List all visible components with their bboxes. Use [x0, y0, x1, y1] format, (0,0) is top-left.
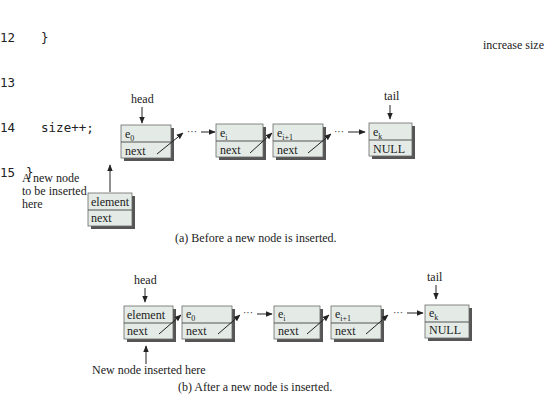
node-ek: ek NULL: [425, 305, 472, 341]
caption-b: (b) After a new node is inserted.: [178, 380, 332, 394]
head-label: head: [131, 92, 154, 106]
head-label: head: [134, 273, 157, 287]
node-link: next: [127, 324, 148, 338]
node-e0: e0 next: [121, 125, 174, 161]
new-node: element next: [88, 193, 135, 229]
node-link: NULL: [373, 142, 405, 156]
node-ei: ei next: [274, 306, 323, 342]
ellipsis: ···: [393, 307, 403, 318]
node-link: next: [91, 211, 112, 225]
node-link: next: [186, 324, 207, 338]
new-node-label: New node inserted here: [92, 363, 206, 377]
diagram-after-insert: head element next e0 next ··· ei n: [92, 270, 472, 394]
node-e0: e0 next: [182, 306, 235, 342]
node-ek: ek NULL: [369, 123, 415, 159]
diagram-before-insert: head e0 next ··· ei next ei+1 next: [22, 89, 415, 245]
node-value: element: [91, 195, 130, 209]
ellipsis: ···: [243, 307, 253, 318]
node-link: next: [125, 144, 146, 158]
node-ei: ei next: [216, 124, 266, 160]
new-node-label: A new node to be inserted here: [22, 171, 90, 211]
node-link: next: [277, 143, 298, 157]
linked-list-diagram: head e0 next ··· ei next ei+1 next: [0, 0, 555, 402]
caption-a: (a) Before a new node is inserted.: [175, 231, 337, 245]
tail-label: tail: [427, 270, 443, 284]
node-link: next: [220, 143, 241, 157]
node-element: element next: [124, 306, 176, 342]
node-link: NULL: [429, 323, 461, 337]
ellipsis: ···: [187, 126, 197, 137]
node-link: next: [335, 324, 356, 338]
ellipsis: ···: [334, 126, 344, 137]
node-link: next: [278, 324, 299, 338]
tail-label: tail: [384, 89, 400, 103]
node-value: element: [127, 308, 166, 322]
node-ei-plus-1: ei+1 next: [331, 306, 384, 342]
node-ei-plus-1: ei+1 next: [273, 124, 326, 160]
